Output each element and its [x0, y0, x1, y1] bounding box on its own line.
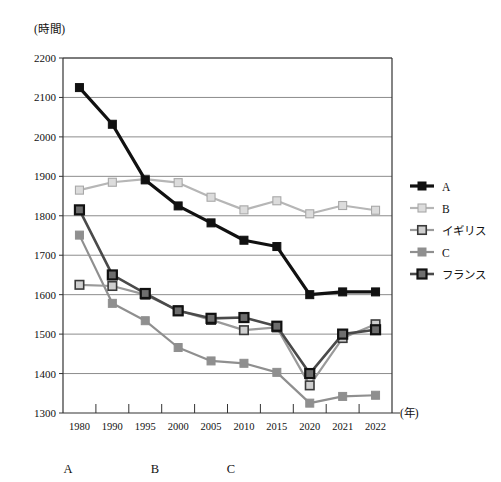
- legend-item-2: B: [410, 203, 450, 215]
- y-tick-label: 1900: [34, 170, 57, 182]
- data-point-marker: [372, 206, 380, 214]
- y-tick-label: 1300: [34, 407, 57, 419]
- data-point-marker: [339, 288, 347, 296]
- data-point-marker: [75, 84, 83, 92]
- data-point-marker: [207, 193, 215, 201]
- data-point-marker: [418, 270, 427, 279]
- bottom-annotation-A: A: [63, 462, 72, 476]
- data-point-marker: [339, 202, 347, 210]
- x-tick-label: 1980: [69, 421, 90, 432]
- legend-label: C: [442, 247, 450, 259]
- data-point-marker: [339, 392, 347, 400]
- data-point-marker: [273, 368, 281, 376]
- data-point-marker: [306, 381, 315, 390]
- data-point-marker: [306, 210, 314, 218]
- x-tick-label: 2005: [201, 421, 222, 432]
- x-tick-label: 2000: [168, 421, 189, 432]
- chart-legend: ABイギリスCフランス: [410, 181, 486, 281]
- y-tick-label: 1400: [34, 368, 57, 380]
- data-point-marker: [108, 282, 117, 291]
- data-point-marker: [240, 206, 248, 214]
- series-layer: [75, 84, 380, 408]
- x-axis-ticks: [96, 404, 359, 413]
- data-point-marker: [174, 202, 182, 210]
- data-point-marker: [418, 204, 426, 212]
- data-point-marker: [240, 359, 248, 367]
- y-tick-label: 2200: [34, 52, 57, 64]
- data-point-marker: [239, 313, 248, 322]
- bottom-annotation-B: B: [151, 462, 159, 476]
- data-point-marker: [418, 182, 426, 190]
- data-point-marker: [338, 330, 347, 339]
- line-chart: (時間) (年) 1300140015001600170018001900200…: [0, 0, 501, 482]
- legend-item-3: イギリス: [410, 225, 486, 237]
- x-tick-label: 1990: [102, 421, 123, 432]
- data-point-marker: [418, 226, 427, 235]
- data-point-marker: [75, 281, 84, 290]
- bottom-annotation-C: C: [227, 462, 235, 476]
- y-axis-tick-labels: 1300140015001600170018001900200021002200: [34, 52, 57, 419]
- x-tick-label: 2020: [299, 421, 320, 432]
- data-point-marker: [305, 369, 314, 378]
- x-tick-label: 2021: [332, 421, 353, 432]
- y-tick-label: 1600: [34, 289, 57, 301]
- x-tick-label: 1995: [135, 421, 156, 432]
- data-point-marker: [75, 186, 83, 194]
- y-tick-label: 1800: [34, 210, 57, 222]
- data-point-marker: [207, 357, 215, 365]
- data-point-marker: [174, 306, 183, 315]
- data-point-marker: [75, 205, 84, 214]
- data-point-marker: [273, 197, 281, 205]
- data-point-marker: [174, 344, 182, 352]
- legend-item-1: A: [410, 181, 451, 193]
- plot-axes: [63, 58, 400, 413]
- series-line: [79, 285, 375, 386]
- data-point-marker: [141, 289, 150, 298]
- data-point-marker: [372, 391, 380, 399]
- data-point-marker: [240, 326, 249, 335]
- y-tick-label: 2100: [34, 91, 57, 103]
- x-tick-label: 2022: [365, 421, 386, 432]
- data-point-marker: [108, 299, 116, 307]
- data-point-marker: [372, 288, 380, 296]
- series-line: [79, 88, 375, 295]
- data-point-marker: [108, 178, 116, 186]
- data-point-marker: [240, 236, 248, 244]
- data-point-marker: [306, 291, 314, 299]
- y-tick-label: 2000: [34, 131, 57, 143]
- data-point-marker: [108, 270, 117, 279]
- legend-label: フランス: [442, 269, 486, 281]
- bottom-annotations: ABC: [63, 462, 235, 476]
- data-point-marker: [306, 399, 314, 407]
- data-point-marker: [371, 325, 380, 334]
- series-2: [75, 175, 379, 218]
- x-tick-label: 2010: [233, 421, 254, 432]
- data-point-marker: [418, 248, 426, 256]
- data-point-marker: [75, 231, 83, 239]
- data-point-marker: [174, 179, 182, 187]
- data-point-marker: [207, 219, 215, 227]
- data-point-marker: [273, 243, 281, 251]
- legend-item-5: フランス: [410, 269, 486, 281]
- data-point-marker: [207, 314, 216, 323]
- series-1: [75, 84, 379, 299]
- data-point-marker: [108, 120, 116, 128]
- series-line: [79, 179, 375, 214]
- data-point-marker: [272, 322, 281, 331]
- legend-label: イギリス: [442, 225, 486, 237]
- data-point-marker: [141, 176, 149, 184]
- y-tick-label: 1700: [34, 249, 57, 261]
- x-axis-tick-labels: 1980199019952000200520102015202020212022: [69, 421, 386, 432]
- legend-item-4: C: [410, 247, 450, 259]
- data-point-marker: [141, 317, 149, 325]
- x-tick-label: 2015: [266, 421, 287, 432]
- y-tick-label: 1500: [34, 328, 57, 340]
- legend-label: A: [442, 181, 451, 193]
- legend-label: B: [442, 203, 450, 215]
- chart-svg: 1300140015001600170018001900200021002200…: [0, 0, 501, 482]
- gridlines: [59, 58, 392, 413]
